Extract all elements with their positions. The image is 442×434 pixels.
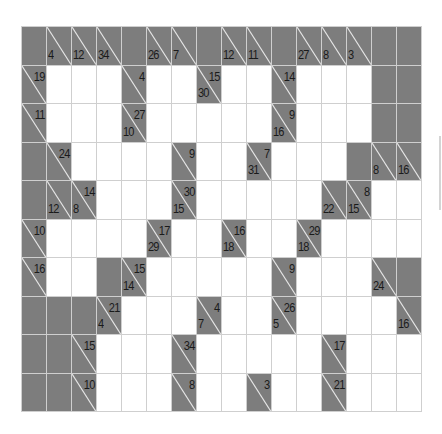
entry-cell[interactable] — [172, 66, 196, 104]
down-clue: 8 — [373, 163, 378, 176]
entry-cell[interactable] — [297, 335, 321, 373]
entry-cell[interactable] — [122, 374, 146, 412]
entry-cell[interactable] — [122, 143, 146, 181]
entry-cell[interactable] — [397, 374, 421, 412]
entry-cell[interactable] — [222, 66, 246, 104]
entry-cell[interactable] — [347, 66, 371, 104]
entry-cell[interactable] — [372, 297, 396, 335]
entry-cell[interactable] — [297, 66, 321, 104]
entry-cell[interactable] — [147, 335, 171, 373]
entry-cell[interactable] — [197, 220, 221, 258]
entry-cell[interactable] — [372, 374, 396, 412]
entry-cell[interactable] — [172, 258, 196, 296]
blocked-cell — [372, 27, 396, 65]
entry-cell[interactable] — [347, 374, 371, 412]
entry-cell[interactable] — [372, 335, 396, 373]
entry-cell[interactable] — [247, 181, 271, 219]
entry-cell[interactable] — [222, 258, 246, 296]
entry-cell[interactable] — [397, 181, 421, 219]
entry-cell[interactable] — [97, 374, 121, 412]
entry-cell[interactable] — [47, 258, 71, 296]
entry-cell[interactable] — [47, 220, 71, 258]
entry-cell[interactable] — [297, 374, 321, 412]
entry-cell[interactable] — [222, 335, 246, 373]
entry-cell[interactable] — [122, 220, 146, 258]
entry-cell[interactable] — [97, 220, 121, 258]
entry-cell[interactable] — [347, 335, 371, 373]
entry-cell[interactable] — [97, 335, 121, 373]
entry-cell[interactable] — [322, 143, 346, 181]
entry-cell[interactable] — [297, 104, 321, 142]
entry-cell[interactable] — [72, 258, 96, 296]
entry-cell[interactable] — [297, 143, 321, 181]
entry-cell[interactable] — [347, 297, 371, 335]
clue-cell: 8 — [372, 143, 396, 181]
entry-cell[interactable] — [197, 374, 221, 412]
entry-cell[interactable] — [322, 66, 346, 104]
entry-cell[interactable] — [247, 258, 271, 296]
entry-cell[interactable] — [172, 220, 196, 258]
entry-cell[interactable] — [122, 297, 146, 335]
across-clue: 19 — [33, 70, 44, 83]
entry-cell[interactable] — [222, 297, 246, 335]
entry-cell[interactable] — [172, 104, 196, 142]
entry-cell[interactable] — [222, 374, 246, 412]
entry-cell[interactable] — [72, 104, 96, 142]
entry-cell[interactable] — [347, 258, 371, 296]
entry-cell[interactable] — [97, 143, 121, 181]
entry-cell[interactable] — [247, 66, 271, 104]
entry-cell[interactable] — [97, 104, 121, 142]
entry-cell[interactable] — [147, 297, 171, 335]
entry-cell[interactable] — [322, 297, 346, 335]
entry-cell[interactable] — [197, 335, 221, 373]
scrollbar-edge[interactable] — [439, 136, 441, 210]
entry-cell[interactable] — [47, 104, 71, 142]
entry-cell[interactable] — [372, 181, 396, 219]
entry-cell[interactable] — [147, 181, 171, 219]
entry-cell[interactable] — [222, 181, 246, 219]
entry-cell[interactable] — [397, 220, 421, 258]
entry-cell[interactable] — [347, 220, 371, 258]
entry-cell[interactable] — [297, 258, 321, 296]
entry-cell[interactable] — [147, 143, 171, 181]
entry-cell[interactable] — [72, 220, 96, 258]
entry-cell[interactable] — [222, 143, 246, 181]
entry-cell[interactable] — [272, 220, 296, 258]
entry-cell[interactable] — [297, 297, 321, 335]
entry-cell[interactable] — [147, 374, 171, 412]
entry-cell[interactable] — [247, 104, 271, 142]
entry-cell[interactable] — [322, 104, 346, 142]
entry-cell[interactable] — [72, 143, 96, 181]
entry-cell[interactable] — [97, 181, 121, 219]
entry-cell[interactable] — [372, 220, 396, 258]
entry-cell[interactable] — [322, 258, 346, 296]
entry-cell[interactable] — [247, 335, 271, 373]
entry-cell[interactable] — [147, 258, 171, 296]
entry-cell[interactable] — [222, 104, 246, 142]
entry-cell[interactable] — [272, 374, 296, 412]
down-clue: 4 — [98, 317, 103, 330]
entry-cell[interactable] — [247, 297, 271, 335]
entry-cell[interactable] — [322, 220, 346, 258]
entry-cell[interactable] — [272, 181, 296, 219]
entry-cell[interactable] — [197, 104, 221, 142]
entry-cell[interactable] — [147, 66, 171, 104]
entry-cell[interactable] — [197, 181, 221, 219]
entry-cell[interactable] — [397, 335, 421, 373]
entry-cell[interactable] — [47, 66, 71, 104]
entry-cell[interactable] — [197, 258, 221, 296]
entry-cell[interactable] — [147, 104, 171, 142]
entry-cell[interactable] — [197, 143, 221, 181]
entry-cell[interactable] — [347, 104, 371, 142]
entry-cell[interactable] — [172, 297, 196, 335]
entry-cell[interactable] — [122, 335, 146, 373]
entry-cell[interactable] — [272, 143, 296, 181]
entry-cell[interactable] — [272, 335, 296, 373]
entry-cell[interactable] — [297, 181, 321, 219]
entry-cell[interactable] — [72, 66, 96, 104]
clue-cell: 21 — [322, 374, 346, 412]
entry-cell[interactable] — [122, 181, 146, 219]
down-clue: 5 — [273, 317, 278, 330]
entry-cell[interactable] — [97, 66, 121, 104]
entry-cell[interactable] — [247, 220, 271, 258]
